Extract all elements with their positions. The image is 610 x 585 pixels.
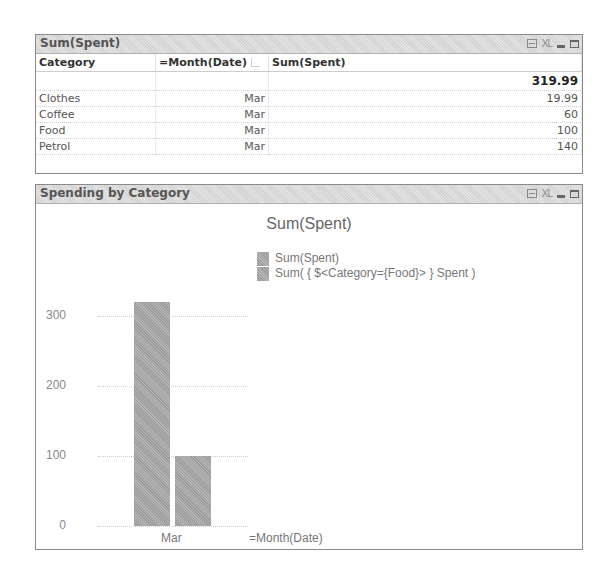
gridline: [98, 526, 248, 527]
print-icon[interactable]: [527, 39, 537, 48]
total-sum: 319.99: [269, 72, 582, 91]
total-month: [156, 72, 269, 91]
maximize-icon[interactable]: [570, 40, 579, 48]
table-header-row: Category =Month(Date) Sum(Spent): [36, 54, 582, 72]
cell-category[interactable]: Petrol: [36, 139, 156, 155]
column-header-category[interactable]: Category: [36, 54, 156, 72]
minimize-icon[interactable]: [557, 195, 565, 198]
cell-month[interactable]: Mar: [156, 91, 269, 107]
cell-category[interactable]: Food: [36, 123, 156, 139]
legend-item[interactable]: Sum(Spent): [257, 251, 475, 266]
cell-sum: 140: [269, 139, 582, 155]
cell-category[interactable]: Coffee: [36, 107, 156, 123]
excel-icon[interactable]: XL: [542, 38, 552, 49]
cell-sum: 100: [269, 123, 582, 139]
table-row[interactable]: Food Mar 100: [36, 123, 582, 139]
bar-chart-box: Spending by Category XL Sum(Spent) Sum(S…: [35, 184, 583, 550]
y-tick: 100: [36, 448, 66, 462]
table-caption[interactable]: Sum(Spent) XL: [36, 35, 582, 54]
cell-sum: 60: [269, 107, 582, 123]
legend-swatch: [257, 252, 269, 266]
chart-caption[interactable]: Spending by Category XL: [36, 185, 582, 204]
table-row[interactable]: Coffee Mar 60: [36, 107, 582, 123]
chart-title: Sum(Spent): [36, 215, 582, 233]
column-header-month[interactable]: =Month(Date): [156, 54, 269, 72]
maximize-icon[interactable]: [570, 190, 579, 198]
print-icon[interactable]: [527, 189, 537, 198]
total-category: [36, 72, 156, 91]
column-header-month-label: =Month(Date): [159, 56, 247, 69]
total-row: 319.99: [36, 72, 582, 91]
excel-icon[interactable]: XL: [542, 188, 552, 199]
table-row[interactable]: Clothes Mar 19.99: [36, 91, 582, 107]
straight-table-box: Sum(Spent) XL Category =Month(Date) Sum(…: [35, 34, 583, 174]
sort-indicator-icon: [251, 58, 260, 67]
y-tick: 300: [36, 308, 66, 322]
table-row[interactable]: Petrol Mar 140: [36, 139, 582, 155]
minimize-icon[interactable]: [557, 45, 565, 48]
legend-item[interactable]: Sum( { $<Category={Food}> } Spent ): [257, 266, 475, 281]
table-title: Sum(Spent): [40, 36, 120, 50]
legend-label: Sum(Spent): [275, 251, 339, 265]
legend-label: Sum( { $<Category={Food}> } Spent ): [275, 266, 475, 280]
x-category-label[interactable]: Mar: [161, 531, 182, 545]
x-axis-title: =Month(Date): [249, 531, 323, 545]
data-table: Category =Month(Date) Sum(Spent) 319.99 …: [36, 54, 582, 155]
y-tick: 0: [36, 518, 66, 532]
cell-sum: 19.99: [269, 91, 582, 107]
cell-month[interactable]: Mar: [156, 139, 269, 155]
chart-box-title: Spending by Category: [40, 186, 190, 200]
bar-sum-spent[interactable]: [134, 302, 170, 526]
cell-month[interactable]: Mar: [156, 123, 269, 139]
chart-legend: Sum(Spent) Sum( { $<Category={Food}> } S…: [257, 251, 475, 281]
gridline: [98, 316, 248, 317]
column-header-sum[interactable]: Sum(Spent): [269, 54, 582, 72]
cell-category[interactable]: Clothes: [36, 91, 156, 107]
gridline: [98, 456, 248, 457]
bar-sum-food[interactable]: [175, 456, 211, 526]
gridline: [98, 386, 248, 387]
legend-swatch: [257, 267, 269, 281]
y-tick: 200: [36, 378, 66, 392]
cell-month[interactable]: Mar: [156, 107, 269, 123]
